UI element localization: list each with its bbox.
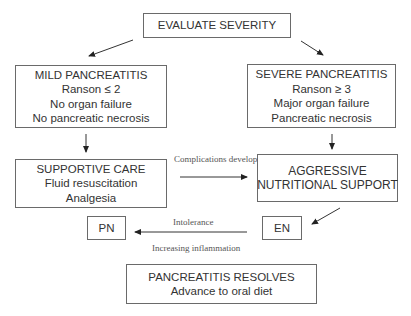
node-text: Analgesia bbox=[66, 191, 117, 206]
arrow-evaluate-to-severe bbox=[301, 41, 323, 55]
arrow-evaluate-to-mild bbox=[89, 40, 133, 56]
node-aggressive-nutritional-support: AGGRESSIVE NUTRITIONAL SUPPORT bbox=[257, 154, 398, 202]
node-text: No pancreatic necrosis bbox=[33, 111, 150, 126]
edge-label-complications: Complications develop bbox=[174, 154, 257, 164]
node-title: MILD PANCREATITIS bbox=[35, 68, 148, 83]
node-severe-pancreatitis: SEVERE PANCREATITIS Ranson ≥ 3 Major org… bbox=[247, 64, 396, 128]
node-text: No organ failure bbox=[50, 97, 132, 112]
node-text: Ranson ≥ 3 bbox=[292, 82, 351, 97]
node-mild-pancreatitis: MILD PANCREATITIS Ranson ≤ 2 No organ fa… bbox=[15, 65, 167, 128]
node-evaluate-severity: EVALUATE SEVERITY bbox=[143, 13, 291, 38]
node-text: EVALUATE SEVERITY bbox=[158, 18, 276, 33]
node-title: SEVERE PANCREATITIS bbox=[256, 67, 388, 82]
node-text: Ranson ≤ 2 bbox=[62, 82, 121, 97]
node-pn: PN bbox=[87, 216, 126, 240]
node-text: EN bbox=[274, 221, 290, 236]
edge-label-inflammation: Increasing inflammation bbox=[152, 243, 240, 253]
node-title: AGGRESSIVE bbox=[288, 164, 367, 179]
node-pancreatitis-resolves: PANCREATITIS RESOLVES Advance to oral di… bbox=[126, 264, 317, 304]
node-text: Pancreatic necrosis bbox=[271, 111, 371, 126]
node-title: SUPPORTIVE CARE bbox=[36, 162, 145, 177]
node-supportive-care: SUPPORTIVE CARE Fluid resuscitation Anal… bbox=[15, 159, 167, 208]
node-text: PN bbox=[99, 221, 115, 236]
node-title: NUTRITIONAL SUPPORT bbox=[257, 178, 398, 193]
arrow-aggressive-to-en bbox=[312, 208, 340, 224]
node-title: PANCREATITIS RESOLVES bbox=[148, 270, 294, 285]
edge-label-intolerance: Intolerance bbox=[173, 217, 213, 227]
node-en: EN bbox=[262, 216, 302, 240]
node-text: Advance to oral diet bbox=[171, 284, 273, 299]
node-text: Fluid resuscitation bbox=[45, 176, 138, 191]
node-text: Major organ failure bbox=[274, 96, 370, 111]
